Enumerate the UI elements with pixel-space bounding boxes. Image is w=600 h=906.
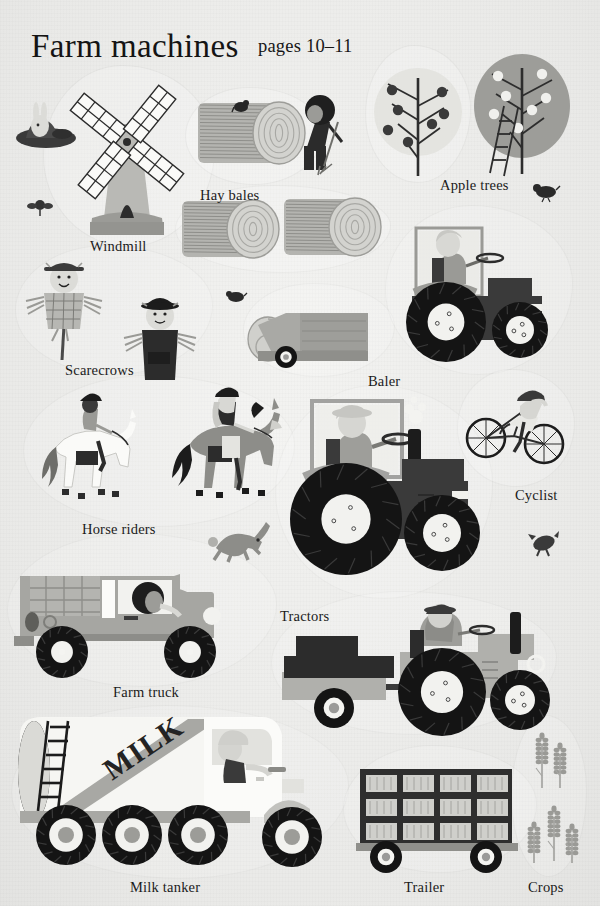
- label-baler: Baler: [368, 373, 400, 390]
- label-hay-bales: Hay bales: [200, 187, 259, 204]
- label-windmill: Windmill: [90, 238, 147, 255]
- sticker-hay-bale-mid[interactable]: [180, 195, 280, 263]
- sticker-farmer-fork[interactable]: [282, 88, 344, 170]
- sticker-horse-white[interactable]: [32, 385, 142, 510]
- sticker-baler[interactable]: [258, 295, 378, 367]
- label-milk-tanker: Milk tanker: [130, 879, 200, 896]
- sticker-cyclist[interactable]: [466, 378, 564, 476]
- sticker-milk-tanker[interactable]: MILK: [20, 715, 340, 870]
- sticker-horse-gray[interactable]: [168, 378, 286, 508]
- sticker-bird-small[interactable]: [226, 288, 246, 304]
- sticker-flower-left[interactable]: [28, 196, 52, 216]
- label-tractors: Tractors: [280, 608, 329, 625]
- sticker-trailer[interactable]: [352, 755, 527, 867]
- label-farm-truck: Farm truck: [113, 684, 179, 701]
- label-trailer: Trailer: [404, 879, 444, 896]
- label-cyclist: Cyclist: [515, 487, 558, 504]
- sticker-scarecrow-plaid[interactable]: [22, 255, 106, 360]
- label-crops: Crops: [528, 879, 564, 896]
- label-horse-riders: Horse riders: [82, 521, 156, 538]
- sticker-hay-bale-mid2[interactable]: [282, 193, 382, 261]
- label-scarecrows: Scarecrows: [65, 362, 134, 379]
- sticker-tractor-big[interactable]: [282, 395, 482, 590]
- label-apple-trees: Apple trees: [440, 177, 509, 194]
- sticker-bird-dark[interactable]: [528, 530, 558, 556]
- sticker-bird-right[interactable]: [534, 182, 560, 200]
- page-range: pages 10–11: [258, 36, 353, 57]
- sticker-apple-tree-dark[interactable]: [470, 48, 580, 183]
- sticker-crops-bottom[interactable]: [518, 805, 584, 865]
- sticker-farm-truck[interactable]: [14, 540, 264, 675]
- sticker-crops-top[interactable]: [524, 728, 580, 790]
- page-title: Farm machines: [31, 28, 239, 65]
- sticker-apple-tree-light[interactable]: [372, 58, 464, 176]
- sticker-bird-on-bale[interactable]: [232, 98, 250, 114]
- sticker-tractor-baler[interactable]: [392, 218, 560, 366]
